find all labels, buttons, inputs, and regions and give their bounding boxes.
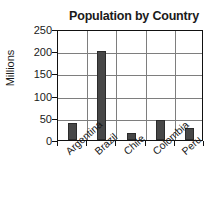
y-axis-tick-mark	[52, 119, 57, 120]
y-axis-tick-label: 0	[24, 135, 52, 147]
bar-chart-figure: Population by Country Millions 050100150…	[0, 0, 218, 203]
gridline-vertical	[87, 31, 88, 140]
y-axis-tick-label: 250	[24, 24, 52, 36]
gridline-horizontal	[58, 75, 202, 76]
y-axis-tick-mark	[52, 74, 57, 75]
y-axis-tick-label: 100	[24, 91, 52, 103]
gridline-horizontal	[58, 53, 202, 54]
gridline-vertical	[116, 31, 117, 140]
y-axis-tick-label: 150	[24, 68, 52, 80]
y-axis-tick-mark	[52, 30, 57, 31]
y-axis-tick-labels: 050100150200250	[22, 30, 52, 141]
y-axis-label: Millions	[4, 32, 16, 104]
y-axis-tick-mark	[52, 97, 57, 98]
chart-title: Population by Country	[56, 9, 212, 23]
y-axis-tick-label: 200	[24, 46, 52, 58]
y-axis-tick-mark	[52, 52, 57, 53]
gridline-vertical	[146, 31, 147, 140]
gridline-horizontal	[58, 98, 202, 99]
x-axis-tick-mark	[57, 141, 58, 146]
y-axis-tick-label: 50	[24, 113, 52, 125]
